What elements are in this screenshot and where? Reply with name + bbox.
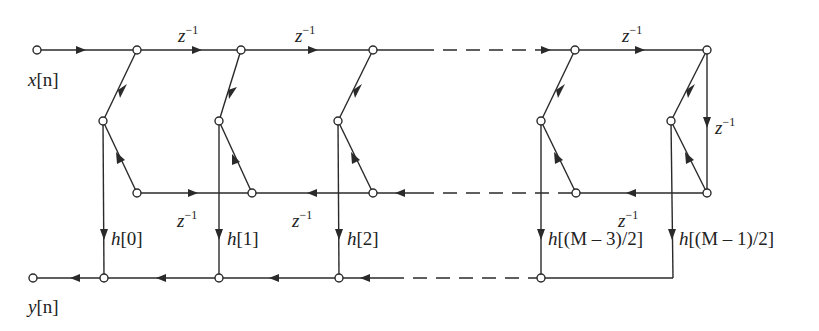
top-node [571, 46, 579, 54]
arrow-left-icon [395, 189, 405, 197]
arrow-right-icon [635, 46, 645, 54]
output-node [29, 274, 37, 282]
input-node [33, 46, 41, 54]
arrow-right-icon [192, 46, 202, 54]
arrow-down-icon [703, 117, 711, 128]
sum-node [335, 274, 343, 282]
coefficient-label-h-m1-2: h[(M – 1)/2] [679, 229, 774, 248]
adder-node [99, 117, 107, 125]
arrow-right-icon [188, 189, 198, 197]
input-label: x[n] [28, 70, 59, 89]
adder-node [334, 117, 342, 125]
arrow-left-icon [70, 274, 80, 282]
top-node [133, 46, 141, 54]
sum-node [537, 274, 545, 282]
output-line [33, 274, 673, 282]
reverse-delay-line [137, 189, 707, 197]
reverse-node [703, 189, 711, 197]
right-vertical-delay [703, 50, 711, 193]
sum-node [215, 274, 223, 282]
adder-node [215, 117, 223, 125]
arrow-up-left-icon [685, 152, 694, 164]
arrow-up-left-icon [116, 152, 125, 164]
delay-label-bottom-1: z−1 [177, 211, 197, 230]
delay-label-right-vertical: z−1 [715, 118, 735, 137]
arrow-left-icon [626, 189, 636, 197]
adder-node [667, 117, 675, 125]
arrow-left-icon [307, 189, 317, 197]
coefficient-label-h1: h[1] [227, 229, 259, 248]
arrow-right-icon [76, 46, 86, 54]
arrow-right-icon [541, 46, 551, 54]
delay-label-top-2: z−1 [295, 26, 315, 45]
delay-label-top-last: z−1 [622, 26, 642, 45]
adder-branches [103, 50, 707, 193]
top-node [703, 46, 711, 54]
top-node [369, 46, 377, 54]
arrow-right-icon [308, 46, 318, 54]
flow-graph-svg [0, 0, 819, 331]
coefficient-label-h2: h[2] [347, 229, 379, 248]
arrow-down-left-icon [686, 84, 695, 98]
arrow-left-icon [269, 274, 279, 282]
arrow-down-left-icon [353, 84, 362, 98]
arrow-down-icon [537, 229, 545, 240]
arrow-left-icon [360, 274, 370, 282]
arrow-down-icon [668, 229, 676, 240]
arrow-down-icon [215, 229, 223, 240]
coefficient-branches [100, 121, 676, 278]
arrow-left-icon [156, 274, 166, 282]
arrow-down-icon [100, 229, 108, 240]
reverse-node [133, 189, 141, 197]
coefficient-label-h0: h[0] [111, 229, 143, 248]
delay-label-top-1: z−1 [178, 26, 198, 45]
delay-label-bottom-2: z−1 [292, 211, 312, 230]
coefficient-label-h-m3-2: h[(M – 3)/2] [548, 229, 643, 248]
sum-node [100, 274, 108, 282]
reverse-node [369, 189, 377, 197]
top-node [237, 46, 245, 54]
fir-flow-graph: x[n] y[n] z−1 z−1 z−1 z−1 z−1 z−1 z−1 h[… [0, 0, 819, 331]
reverse-node [572, 189, 580, 197]
output-label: y[n] [28, 297, 59, 316]
reverse-node [248, 189, 256, 197]
arrow-down-icon [335, 229, 343, 240]
adder-node [537, 117, 545, 125]
